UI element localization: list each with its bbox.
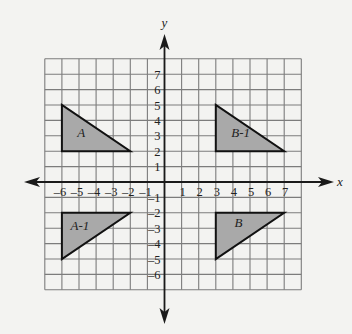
label-triangle-b-1: B-1: [231, 125, 250, 140]
x-tick-label: –6: [53, 185, 67, 199]
y-tick-label: –1: [147, 191, 161, 205]
y-tick-label: 3: [154, 129, 160, 143]
x-tick-label: 4: [231, 185, 238, 199]
label-triangle-a: A: [76, 125, 85, 140]
y-axis-label: y: [160, 15, 168, 30]
label-triangle-a-1: A-1: [69, 218, 89, 233]
axes: [24, 34, 334, 324]
x-tick-label: –4: [87, 185, 101, 199]
y-tick-label: 4: [154, 114, 161, 128]
grid-lines: [45, 59, 302, 290]
y-tick-label: –6: [147, 268, 161, 282]
x-tick-label: 1: [179, 185, 185, 199]
y-tick-label: 6: [154, 83, 160, 97]
label-triangle-b: B: [235, 215, 243, 230]
x-axis-label: x: [336, 174, 343, 189]
y-tick-label: 1: [154, 160, 160, 174]
y-tick-label: 7: [154, 68, 160, 82]
y-tick-label: –4: [147, 237, 161, 251]
x-tick-label: 5: [248, 185, 254, 199]
x-tick-label: –3: [104, 185, 118, 199]
tick-labels: –6–5–4–3–2–112345677654321–1–2–3–4–5–6: [53, 68, 289, 282]
y-tick-label: 2: [154, 145, 160, 159]
y-tick-label: –5: [147, 253, 161, 267]
y-tick-label: 5: [154, 99, 160, 113]
x-tick-label: –2: [121, 185, 135, 199]
x-tick-label: 7: [282, 185, 288, 199]
y-tick-label: –3: [147, 222, 161, 236]
coordinate-plane-diagram: –6–5–4–3–2–112345677654321–1–2–3–4–5–6 x…: [0, 0, 352, 334]
x-tick-label: –5: [70, 185, 84, 199]
x-tick-label: 6: [265, 185, 271, 199]
x-tick-label: 3: [214, 185, 220, 199]
x-tick-label: 2: [197, 185, 203, 199]
y-tick-label: –2: [147, 206, 161, 220]
coordinate-plane-svg: –6–5–4–3–2–112345677654321–1–2–3–4–5–6 x…: [0, 0, 352, 334]
